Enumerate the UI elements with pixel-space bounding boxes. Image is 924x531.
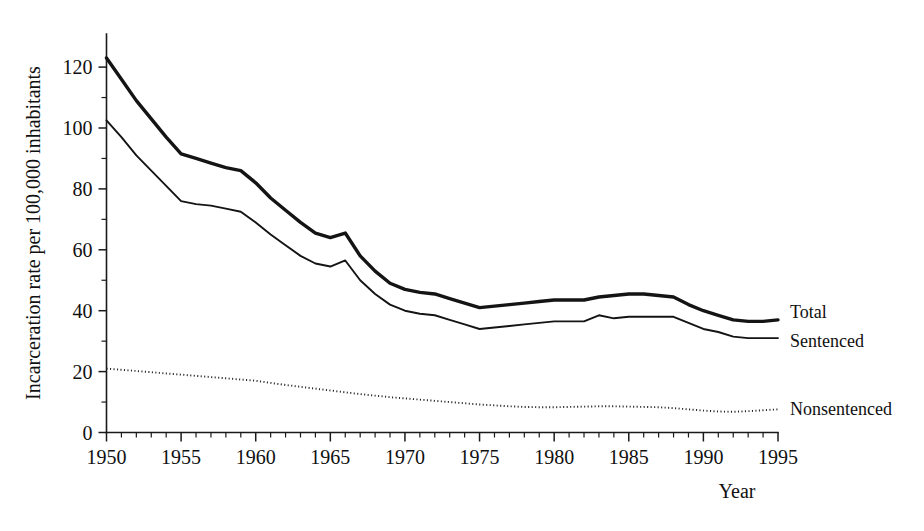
y-tick-label: 80 [73,178,93,200]
series-line-sentenced [107,120,779,338]
series-label-sentenced: Sentenced [790,331,864,351]
y-axis-tick-labels: 020406080100120 [63,56,93,443]
y-tick-label: 100 [63,117,93,139]
x-tick-label: 1950 [87,446,127,468]
series-label-nonsentenced: Nonsentenced [790,399,892,419]
y-tick-label: 60 [73,239,93,261]
series-label-total: Total [790,302,827,322]
x-tick-label: 1955 [161,446,201,468]
y-tick-label: 40 [73,300,93,322]
x-axis-group: 1950195519601965197019751980198519901995 [87,433,799,468]
x-tick-label: 1985 [609,446,649,468]
x-tick-label: 1970 [385,446,425,468]
chart-figure: 020406080100120 195019551960196519701975… [0,0,924,531]
x-tick-label: 1980 [534,446,574,468]
incarceration-rate-line-chart: 020406080100120 195019551960196519701975… [0,0,924,531]
y-tick-label: 20 [73,361,93,383]
x-tick-label: 1975 [460,446,500,468]
y-axis-group: 020406080100120 [63,34,107,444]
x-axis-tick-labels: 1950195519601965197019751980198519901995 [87,446,799,468]
x-tick-label: 1965 [310,446,350,468]
data-series-group [107,58,779,412]
y-tick-label: 120 [63,56,93,78]
series-line-nonsentenced [107,369,779,412]
x-tick-label: 1960 [236,446,276,468]
y-axis-ticks [99,67,107,432]
series-line-total [107,58,779,321]
x-axis-title: Year [719,480,756,502]
x-tick-label: 1995 [758,446,798,468]
y-tick-label: 0 [83,422,93,444]
x-axis-ticks [107,433,779,442]
x-tick-label: 1990 [683,446,723,468]
y-axis-title: Incarceration rate per 100,000 inhabitan… [22,66,45,400]
series-labels-group: Total Sentenced Nonsentenced [790,302,892,420]
